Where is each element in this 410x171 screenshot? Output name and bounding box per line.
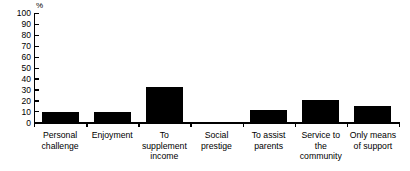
y-axis-tick-labels: 100 90 80 70 60 50 40 30 20 10 0 bbox=[0, 0, 31, 171]
category-label-line: Personal bbox=[34, 130, 86, 141]
y-tick-label-40: 40 bbox=[7, 75, 31, 84]
bar bbox=[94, 112, 131, 122]
category-label-line: To bbox=[138, 130, 190, 141]
category-label-line: the bbox=[295, 141, 347, 152]
y-tick-label-70: 70 bbox=[7, 42, 31, 51]
category-label-line: Service to bbox=[295, 130, 347, 141]
bar bbox=[302, 100, 339, 122]
x-tick-mark bbox=[86, 122, 87, 127]
y-tick-label-30: 30 bbox=[7, 86, 31, 95]
category-label-line: parents bbox=[243, 141, 295, 152]
x-tick-mark bbox=[190, 122, 191, 127]
category-label-line: prestige bbox=[190, 141, 242, 152]
x-tick-mark bbox=[295, 122, 296, 127]
category-label: Enjoyment bbox=[86, 130, 138, 141]
y-tick-label-50: 50 bbox=[7, 64, 31, 73]
x-tick-mark bbox=[399, 122, 400, 127]
category-label: Socialprestige bbox=[190, 130, 242, 151]
category-label: Personalchallenge bbox=[34, 130, 86, 151]
x-tick-mark bbox=[138, 122, 139, 127]
x-axis-category-labels: PersonalchallengeEnjoymentTosupplementin… bbox=[34, 130, 399, 171]
y-tick-label-10: 10 bbox=[7, 108, 31, 117]
x-tick-mark bbox=[243, 122, 244, 127]
category-label: Tosupplementincome bbox=[138, 130, 190, 162]
category-label-line: Social bbox=[190, 130, 242, 141]
category-label: To assistparents bbox=[243, 130, 295, 151]
bar bbox=[146, 87, 183, 122]
category-label-line: Enjoyment bbox=[86, 130, 138, 141]
category-label: Service tothecommunity bbox=[295, 130, 347, 162]
bar bbox=[250, 110, 287, 122]
y-tick-label-90: 90 bbox=[7, 20, 31, 29]
x-tick-mark bbox=[347, 122, 348, 127]
y-tick-label-60: 60 bbox=[7, 53, 31, 62]
category-label-line: challenge bbox=[34, 141, 86, 152]
plot-area bbox=[34, 13, 399, 122]
category-label-line: To assist bbox=[243, 130, 295, 141]
bar bbox=[42, 112, 79, 122]
category-label-line: supplement bbox=[138, 141, 190, 152]
x-tick-mark bbox=[34, 122, 35, 127]
category-label-line: community bbox=[295, 151, 347, 162]
x-axis-line bbox=[34, 122, 399, 124]
y-tick-label-0: 0 bbox=[7, 119, 31, 128]
category-label-line: income bbox=[138, 151, 190, 162]
y-tick-label-80: 80 bbox=[7, 31, 31, 40]
category-label-line: of support bbox=[347, 141, 399, 152]
category-label: Only meansof support bbox=[347, 130, 399, 151]
category-label-line: Only means bbox=[347, 130, 399, 141]
y-tick-label-100: 100 bbox=[7, 9, 31, 18]
y-tick-label-20: 20 bbox=[7, 97, 31, 106]
bar-chart: % 100 90 80 70 60 50 40 30 20 10 0 Perso… bbox=[0, 0, 410, 171]
y-axis-unit-label: % bbox=[36, 1, 43, 10]
bar bbox=[354, 106, 391, 122]
